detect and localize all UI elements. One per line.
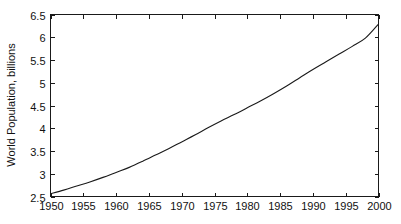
x-tick-label: 1975 xyxy=(203,200,227,212)
y-tick-label: 3 xyxy=(39,169,45,181)
y-tick-label: 3.5 xyxy=(30,146,45,158)
figure-canvas: 1950195519601965197019751980198519901995… xyxy=(0,0,401,224)
y-axis-tick-labels: 2.533.544.555.566.5 xyxy=(30,10,45,204)
y-tick-label: 5 xyxy=(39,78,45,90)
x-tick-label: 1960 xyxy=(104,200,128,212)
y-tick-label: 4.5 xyxy=(30,101,45,113)
x-tick-label: 1990 xyxy=(301,200,325,212)
population-line-chart: 1950195519601965197019751980198519901995… xyxy=(0,0,401,224)
x-tick-label: 1955 xyxy=(71,200,95,212)
y-axis-title: World Population, billions xyxy=(5,43,17,167)
y-tick-label: 6 xyxy=(39,32,45,44)
population-curve xyxy=(51,24,379,194)
y-tick-label: 5.5 xyxy=(30,55,45,67)
y-tick-label: 6.5 xyxy=(30,10,45,22)
x-tick-label: 1970 xyxy=(170,200,194,212)
x-tick-label: 1985 xyxy=(268,200,292,212)
x-tick-label: 1965 xyxy=(137,200,161,212)
x-tick-label: 1995 xyxy=(334,200,358,212)
y-axis-ticks xyxy=(51,16,379,198)
x-tick-label: 2000 xyxy=(367,200,391,212)
y-tick-label: 4 xyxy=(39,123,45,135)
x-axis-ticks xyxy=(52,15,380,197)
y-tick-label: 2.5 xyxy=(30,192,45,204)
x-tick-label: 1980 xyxy=(235,200,259,212)
x-axis-tick-labels: 1950195519601965197019751980198519901995… xyxy=(39,200,391,212)
plot-frame xyxy=(51,15,379,197)
